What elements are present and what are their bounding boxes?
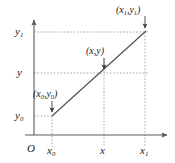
paren-close-x1y1: ): [137, 4, 140, 15]
interpolation-line: [52, 31, 146, 116]
y-tick-label-y0: y0: [15, 110, 23, 121]
label-y-sub-x1y1: 1: [134, 9, 137, 16]
point-label-xy: (x,y): [86, 46, 104, 56]
label-y-sub-x0y0: 0: [51, 93, 54, 100]
paren-close-xy: ): [101, 45, 104, 56]
origin-label: O: [27, 143, 35, 154]
y-tick-sub-y0: 0: [20, 115, 23, 122]
paren-close-x0y0: ): [54, 88, 57, 99]
y-tick-sub-y1: 1: [20, 31, 23, 38]
x-tick-sub-x1: 1: [145, 150, 148, 157]
linear-interpolation-figure: (x1,y1) (x,y) (x0,y0) y1 y y0 O x0 x x1: [0, 0, 175, 163]
y-tick-base-y: y: [17, 66, 22, 78]
x-tick-base-x: x: [100, 144, 105, 156]
point-label-x1y1: (x1,y1): [116, 5, 140, 15]
x-tick-label-x: x: [100, 145, 105, 156]
x-tick-sub-x0: 0: [52, 150, 55, 157]
y-tick-label-y1: y1: [15, 26, 23, 37]
label-x-sub-x1y1: 1: [124, 9, 127, 16]
x-tick-label-x0: x0: [47, 145, 55, 156]
pointer-arrows: [52, 16, 145, 112]
label-x-sub-x0y0: 0: [41, 93, 44, 100]
x-tick-label-x1: x1: [140, 145, 148, 156]
point-label-x0y0: (x0,y0): [33, 89, 57, 99]
axes: [25, 20, 167, 135]
diagram-canvas: [0, 0, 175, 163]
y-tick-label-y: y: [17, 67, 22, 78]
